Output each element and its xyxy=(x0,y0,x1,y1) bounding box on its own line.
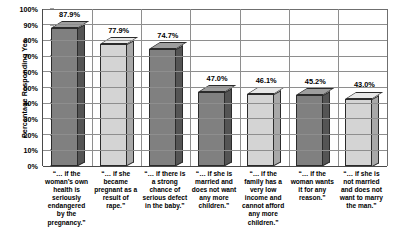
y-tick-label: 40% xyxy=(24,99,38,108)
gridline xyxy=(43,118,387,119)
gridline xyxy=(43,9,387,10)
bar xyxy=(100,44,127,166)
y-tick-label: 90% xyxy=(24,20,38,29)
bar-chart: Percentage Responding Yes 100%90%80%70%6… xyxy=(0,0,399,230)
gridline xyxy=(43,24,387,25)
bar-value-label: 77.9% xyxy=(108,26,129,35)
bar-value-label: 46.1% xyxy=(256,76,277,85)
bar-side-face xyxy=(176,45,183,166)
y-tick-label: 100% xyxy=(20,5,38,14)
y-tick-label: 10% xyxy=(24,146,38,155)
x-axis-category-label: “… if she became pregnant as a result of… xyxy=(93,170,139,210)
bar-front-face xyxy=(149,49,176,166)
gridline xyxy=(43,134,387,135)
y-tick-label: 60% xyxy=(24,67,38,76)
bar-side-face xyxy=(225,88,232,166)
y-tick-label: 80% xyxy=(24,36,38,45)
bar-front-face xyxy=(345,99,372,167)
y-tick-label: 20% xyxy=(24,130,38,139)
category-separator xyxy=(190,9,191,166)
y-tick-label: 50% xyxy=(24,83,38,92)
gridline xyxy=(43,71,387,72)
category-separator xyxy=(289,9,290,166)
gridline xyxy=(43,103,387,104)
plot-area: 87.9%77.9%74.7%47.0%46.1%45.2%43.0% xyxy=(42,9,386,166)
x-axis-category-label: “… if the woman’s own health is seriousl… xyxy=(43,170,89,227)
bar xyxy=(149,49,176,166)
category-separator xyxy=(92,9,93,166)
bar-side-face xyxy=(78,24,85,166)
gridline xyxy=(43,150,387,151)
y-tick-label: 0% xyxy=(28,162,38,171)
x-axis-category-labels: “… if the woman’s own health is seriousl… xyxy=(42,170,386,230)
bar-value-label: 45.2% xyxy=(305,77,326,86)
y-tick-label: 70% xyxy=(24,52,38,61)
category-separator xyxy=(141,9,142,166)
bar-value-label: 47.0% xyxy=(207,74,228,83)
bar xyxy=(247,94,274,166)
y-tick-label: 30% xyxy=(24,114,38,123)
bar-side-face xyxy=(372,95,379,166)
x-axis-category-label: “… if she is not married and does not wa… xyxy=(338,170,384,210)
bar-front-face xyxy=(100,44,127,166)
category-separator xyxy=(387,9,388,166)
gridline xyxy=(43,87,387,88)
x-axis-category-label: “… if she is married and does not want a… xyxy=(191,170,237,210)
bar-front-face xyxy=(296,95,323,166)
category-separator xyxy=(240,9,241,166)
bar-value-label: 74.7% xyxy=(157,31,178,40)
gridline xyxy=(43,166,387,167)
bar-value-label: 43.0% xyxy=(354,80,375,89)
bar-side-face xyxy=(274,90,281,166)
bar xyxy=(296,95,323,166)
x-axis-category-label: “… if there is a strong chance of seriou… xyxy=(142,170,188,210)
bar-front-face xyxy=(51,28,78,166)
gridline xyxy=(43,56,387,57)
bar-front-face xyxy=(247,94,274,166)
gridline xyxy=(43,40,387,41)
bar-value-label: 87.9% xyxy=(59,10,80,19)
bar xyxy=(345,99,372,167)
category-separator xyxy=(338,9,339,166)
x-axis-category-label: “… if the woman wants it for any reason.… xyxy=(289,170,335,202)
x-axis-category-label: “… if the family has a very low income a… xyxy=(240,170,286,227)
y-axis-tick-labels: 100%90%80%70%60%50%40%30%20%10%0% xyxy=(12,0,38,170)
bar xyxy=(51,28,78,166)
